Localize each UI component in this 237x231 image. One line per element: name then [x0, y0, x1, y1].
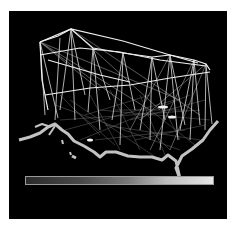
network-map-graphic — [9, 11, 227, 219]
us-map-outline — [19, 121, 218, 179]
network-map-figure — [9, 11, 227, 219]
grayscale-colorbar — [25, 176, 214, 185]
